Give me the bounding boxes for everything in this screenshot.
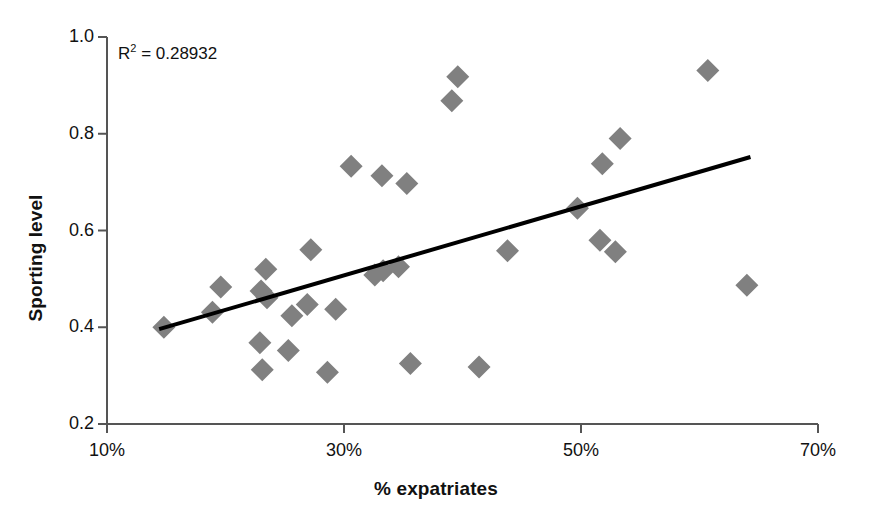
y-tick-label: 0.6 <box>32 220 94 241</box>
data-point-marker <box>209 276 232 299</box>
data-point-marker <box>395 172 418 195</box>
data-point-marker <box>735 274 758 297</box>
data-point-marker <box>299 238 322 261</box>
axes <box>107 37 818 424</box>
r-squared-annotation: R2 = 0.28932 <box>118 42 217 64</box>
y-tick-label: 1.0 <box>32 26 94 47</box>
data-point-marker <box>248 331 271 354</box>
data-point-marker <box>609 127 632 150</box>
data-point-marker <box>446 65 469 88</box>
data-point-marker <box>340 155 363 178</box>
x-tick-label: 70% <box>778 440 858 461</box>
y-tick-label: 0.8 <box>32 123 94 144</box>
data-point-marker <box>440 89 463 112</box>
x-axis-ticks <box>107 424 818 433</box>
data-point-marker <box>324 298 347 321</box>
data-points <box>152 59 758 384</box>
y-axis-label: Sporting level <box>25 178 47 338</box>
data-point-marker <box>696 59 719 82</box>
data-point-marker <box>496 239 519 262</box>
data-point-marker <box>316 361 339 384</box>
data-point-marker <box>468 355 491 378</box>
scatter-chart: Sporting level % expatriates R2 = 0.2893… <box>0 0 872 525</box>
trendline <box>159 157 750 329</box>
data-point-marker <box>370 164 393 187</box>
y-tick-label: 0.4 <box>32 316 94 337</box>
data-point-marker <box>591 152 614 175</box>
data-point-marker <box>254 258 277 281</box>
y-axis-ticks <box>98 37 107 424</box>
x-tick-label: 10% <box>67 440 147 461</box>
r2-value: = 0.28932 <box>136 44 217 63</box>
x-tick-label: 30% <box>304 440 384 461</box>
data-point-marker <box>251 358 274 381</box>
data-point-marker <box>277 339 300 362</box>
trendline-segment <box>159 157 750 329</box>
x-tick-label: 50% <box>541 440 621 461</box>
y-tick-label: 0.2 <box>32 413 94 434</box>
x-axis-label: % expatriates <box>0 478 872 500</box>
r2-prefix: R <box>118 44 130 63</box>
data-point-marker <box>399 352 422 375</box>
